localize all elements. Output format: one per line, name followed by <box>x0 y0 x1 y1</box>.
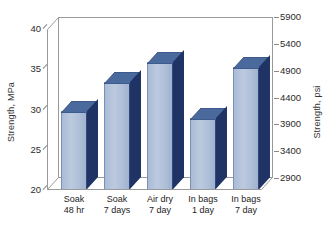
y-axis-left-title: Strength, MPa <box>6 77 16 147</box>
y-axis-left-tick-label: 40 <box>17 23 41 34</box>
bar-column <box>190 118 216 189</box>
bar-front-face <box>61 111 87 189</box>
y-axis-right-tick-mark <box>274 178 279 179</box>
y-axis-right-tick-mark <box>274 71 279 72</box>
y-axis-right-tick-mark <box>274 151 279 152</box>
bar-side-face <box>216 106 227 189</box>
x-axis-category-label-line: 7 day <box>216 205 276 216</box>
y-axis-right-tick-label: 5900 <box>280 11 310 22</box>
y-axis-right-tick-mark <box>274 98 279 99</box>
y-axis-right-title: Strength, psi <box>312 77 322 147</box>
y-axis-right-tick-label: 2900 <box>280 172 310 183</box>
plot-area <box>47 17 273 189</box>
y-axis-right-tick-label: 5400 <box>280 38 310 49</box>
y-axis-right-tick-label: 3400 <box>280 145 310 156</box>
y-axis-right-tick-mark <box>274 44 279 45</box>
y-axis-left-tick-label: 25 <box>17 144 41 155</box>
x-axis-category-label-line: In bags <box>216 194 276 205</box>
bar-column <box>61 111 87 189</box>
y-axis-right-tick-label: 4900 <box>280 65 310 76</box>
bar-front-face <box>104 82 130 189</box>
plot-left-wall <box>47 17 59 190</box>
y-axis-right-tick-mark <box>274 124 279 125</box>
bar-side-face <box>259 55 270 189</box>
bar-front-face <box>233 67 259 189</box>
bar-column <box>233 67 259 189</box>
bar-column <box>147 62 173 189</box>
bar-column <box>104 82 130 189</box>
bar-side-face <box>173 50 184 189</box>
y-axis-left-tick-label: 20 <box>17 184 41 195</box>
bar-front-face <box>147 62 173 189</box>
bar-chart: Strength, MPa Strength, psi 2025303540 2… <box>0 0 326 235</box>
bar-side-face <box>87 99 98 189</box>
y-axis-right-tick-label: 4400 <box>280 92 310 103</box>
x-axis-category-label: In bags7 day <box>216 194 276 216</box>
y-axis-right-tick-label: 3900 <box>280 118 310 129</box>
y-axis-right-tick-mark <box>274 17 279 18</box>
y-axis-left-tick-label: 35 <box>17 63 41 74</box>
y-axis-left-tick-label: 30 <box>17 104 41 115</box>
bar-front-face <box>190 118 216 189</box>
bar-side-face <box>130 70 141 189</box>
